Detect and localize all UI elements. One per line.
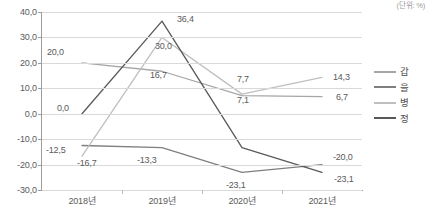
- y-tick-mark: [38, 37, 42, 38]
- data-point-label: 0,0: [57, 103, 69, 113]
- x-tick-mark: [282, 190, 283, 194]
- legend-label: 정: [400, 114, 409, 124]
- gridline: [42, 63, 362, 64]
- data-point-label: 20,0: [47, 47, 64, 57]
- legend-item-정[interactable]: 정: [374, 114, 409, 124]
- x-tick-label: 2021년: [308, 194, 335, 207]
- y-tick-label: -10,0: [17, 134, 37, 144]
- y-tick-mark: [38, 139, 42, 140]
- y-tick-mark: [38, 114, 42, 115]
- line-chart: (단위: %) 40,030,020,010,00,0-10,0-20,0-30…: [0, 0, 429, 217]
- legend-swatch-icon: [374, 71, 396, 73]
- y-tick-label: -30,0: [17, 185, 37, 195]
- gridline: [42, 37, 362, 38]
- legend-swatch-icon: [374, 117, 396, 119]
- data-point-label: 36,4: [177, 14, 194, 24]
- data-point-label: 14,3: [333, 72, 350, 82]
- data-point-label: 16,7: [150, 70, 167, 80]
- y-tick-label: 10,0: [20, 83, 37, 93]
- y-tick-mark: [38, 165, 42, 166]
- y-tick-label: -20,0: [17, 160, 37, 170]
- data-point-label: -20,0: [333, 152, 353, 162]
- data-point-label: -23,1: [226, 180, 246, 190]
- gridline: [42, 12, 362, 13]
- legend-item-갑[interactable]: 갑: [374, 67, 409, 77]
- x-tick-label: 2019년: [148, 194, 175, 207]
- legend-swatch-icon: [374, 86, 396, 88]
- y-tick-mark: [38, 12, 42, 13]
- y-tick-mark: [38, 190, 42, 191]
- y-tick-label: 40,0: [20, 7, 37, 17]
- chart-legend: 갑을병정: [374, 67, 409, 123]
- legend-label: 갑: [400, 67, 409, 77]
- unit-note: (단위: %): [397, 0, 425, 10]
- y-tick-label: 30,0: [20, 32, 37, 42]
- legend-item-병[interactable]: 병: [374, 98, 409, 108]
- y-tick-mark: [38, 88, 42, 89]
- data-point-label: -12,5: [46, 145, 66, 155]
- gridline: [42, 139, 362, 140]
- y-tick-mark: [38, 63, 42, 64]
- gridline: [42, 88, 362, 89]
- data-point-label: 7,1: [237, 95, 249, 105]
- legend-swatch-icon: [374, 102, 396, 104]
- x-tick-mark: [202, 190, 203, 194]
- gridline: [42, 114, 362, 115]
- legend-label: 을: [400, 83, 409, 93]
- x-tick-label: 2018년: [68, 194, 95, 207]
- data-point-label: -16,7: [77, 158, 97, 168]
- legend-label: 병: [400, 98, 409, 108]
- y-tick-label: 0,0: [25, 109, 37, 119]
- data-point-label: 30,0: [155, 41, 172, 51]
- data-point-label: -13,3: [137, 155, 157, 165]
- series-line-을: [82, 146, 322, 173]
- x-tick-label: 2020년: [228, 194, 255, 207]
- data-point-label: 6,7: [336, 92, 348, 102]
- series-line-갑: [82, 63, 322, 97]
- y-tick-label: 20,0: [20, 58, 37, 68]
- x-tick-mark: [122, 190, 123, 194]
- data-point-label: 7,7: [237, 74, 249, 84]
- data-point-label: -23,1: [334, 174, 354, 184]
- legend-item-을[interactable]: 을: [374, 83, 409, 93]
